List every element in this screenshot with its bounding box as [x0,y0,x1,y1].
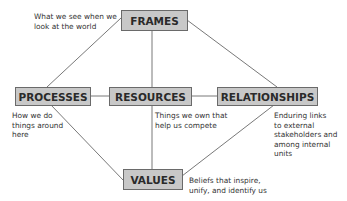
node-frames-label: FRAMES [130,15,179,27]
note-line: help us compete [155,121,227,131]
note-line: look at the world [34,22,117,32]
note-line: among internal [274,140,337,150]
note-line: to external [274,121,337,131]
edge-frames-relationships [187,20,277,87]
note-processes: How we do things around here [12,111,63,140]
note-line: things around [12,121,63,131]
node-relationships: RELATIONSHIPS [217,87,318,106]
node-frames: FRAMES [121,10,188,31]
node-processes: PROCESSES [15,87,91,106]
note-line: Things we own that [155,111,227,121]
note-line: Enduring links [274,111,337,121]
node-values: VALUES [123,169,183,190]
node-resources-label: RESOURCES [115,91,186,103]
note-line: What we see when we [34,12,117,22]
note-line: stakeholders and [274,130,337,140]
note-line: How we do [12,111,63,121]
node-resources: RESOURCES [109,87,192,106]
node-values-label: VALUES [130,174,175,186]
note-line: units [274,149,337,159]
node-processes-label: PROCESSES [19,91,88,103]
note-line: Beliefs that inspire, [189,176,267,186]
note-values: Beliefs that inspire, unify, and identif… [189,176,267,195]
node-relationships-label: RELATIONSHIPS [221,91,315,103]
note-resources: Things we own that help us compete [155,111,227,130]
note-line: here [12,130,63,140]
note-relationships: Enduring links to external stakeholders … [274,111,337,159]
note-frames: What we see when we look at the world [34,12,117,31]
note-line: unify, and identify us [189,186,267,196]
